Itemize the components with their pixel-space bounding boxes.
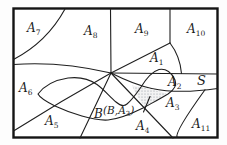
label-intersection: (B,A3) bbox=[103, 104, 134, 118]
label-sample-space: S bbox=[197, 73, 206, 88]
label-event-b: B bbox=[93, 107, 103, 121]
figure-page: A7 A8 A9 A10 A1 A2 S A3 A11 A4 A5 A6 B (… bbox=[0, 0, 227, 145]
partition-diagram: A7 A8 A9 A10 A1 A2 S A3 A11 A4 A5 A6 B (… bbox=[0, 0, 227, 145]
boundary-a8-a9-vertical bbox=[111, 9, 112, 73]
